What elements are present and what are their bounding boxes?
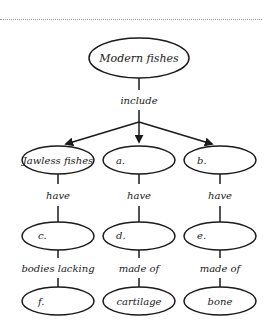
link-label-include: include — [120, 95, 157, 106]
column-b: b. have e. made of bone — [184, 146, 256, 315]
node-e — [184, 222, 256, 250]
node-root: Modern fishes — [89, 38, 189, 78]
node-label: a. — [116, 155, 125, 166]
link-label: made of — [200, 263, 243, 274]
node-label: Modern fishes — [98, 52, 179, 65]
node-c — [22, 222, 94, 250]
column-jawless: Jawless fishes have c. bodies lacking f. — [21, 146, 95, 315]
concept-map: Modern fishes include Jawless fishes hav… — [0, 0, 274, 333]
column-a: a. have d. made of cartilage — [103, 146, 175, 315]
arrow-jawless — [66, 122, 139, 144]
node-b — [184, 146, 256, 174]
link-label: have — [46, 190, 70, 201]
node-label: f. — [37, 296, 45, 307]
link-label: bodies lacking — [21, 263, 94, 274]
arrow-b — [139, 122, 212, 144]
node-label: e. — [197, 230, 206, 241]
node-a — [103, 146, 175, 174]
node-f — [22, 287, 94, 315]
node-label: cartilage — [116, 296, 161, 307]
node-d — [103, 222, 175, 250]
link-label: have — [127, 190, 151, 201]
link-label: made of — [119, 263, 162, 274]
diagram-svg: Modern fishes include Jawless fishes hav… — [0, 0, 274, 333]
link-label: have — [208, 190, 232, 201]
node-label: d. — [116, 230, 126, 241]
node-label: b. — [197, 155, 207, 166]
node-label: c. — [38, 230, 47, 241]
node-label: Jawless fishes — [21, 155, 93, 166]
node-label: bone — [208, 296, 233, 307]
